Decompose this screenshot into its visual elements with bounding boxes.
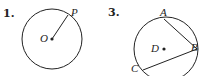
figure-3 — [134, 17, 198, 76]
diagram-stage: 1. O P 3. A D B C — [0, 0, 207, 76]
label-p: P — [71, 6, 78, 18]
geometry-figures — [0, 0, 207, 76]
figure-number-3: 3. — [108, 6, 119, 19]
figure-1 — [22, 9, 82, 69]
center-dot-o — [50, 37, 53, 40]
label-a: A — [160, 6, 167, 18]
label-o: O — [40, 32, 48, 44]
center-dot-d — [162, 47, 165, 50]
figure-number-1: 1. — [3, 7, 14, 20]
label-d: D — [151, 42, 159, 54]
label-c: C — [131, 62, 138, 74]
radius-op — [52, 15, 68, 39]
circle-d — [134, 17, 198, 76]
label-b: B — [191, 41, 198, 53]
